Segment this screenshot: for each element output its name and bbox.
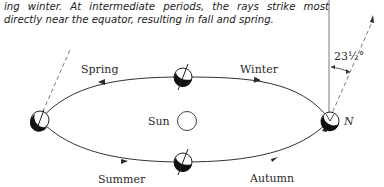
label-north: N — [343, 115, 354, 128]
tilted-axis-line — [330, 22, 372, 118]
sun-icon — [178, 112, 197, 131]
arrow-icon-winter-reverse — [254, 77, 261, 84]
earth-icon-right — [321, 112, 339, 131]
axis-arrow-icon — [370, 15, 374, 23]
earth-icon-top — [174, 64, 192, 90]
earth-icon-left — [30, 110, 49, 132]
label-tilt-angle: 23½° — [334, 50, 364, 63]
orbit-arrows — [98, 77, 327, 164]
label-spring: Spring — [81, 63, 118, 76]
arrow-icon-autumn — [271, 157, 278, 162]
label-winter: Winter — [240, 63, 279, 76]
earth-icon-bottom — [174, 149, 192, 175]
label-summer: Summer — [98, 173, 146, 186]
angle-arrow-icon — [331, 65, 335, 69]
label-autumn: Autumn — [249, 172, 294, 185]
orbit-diagram: Spring Winter Sun Summer Autumn N 23½° — [0, 0, 384, 187]
left-tilted-axis-line — [40, 50, 70, 118]
label-sun: Sun — [148, 115, 170, 128]
arrow-icon-summer — [121, 159, 128, 164]
